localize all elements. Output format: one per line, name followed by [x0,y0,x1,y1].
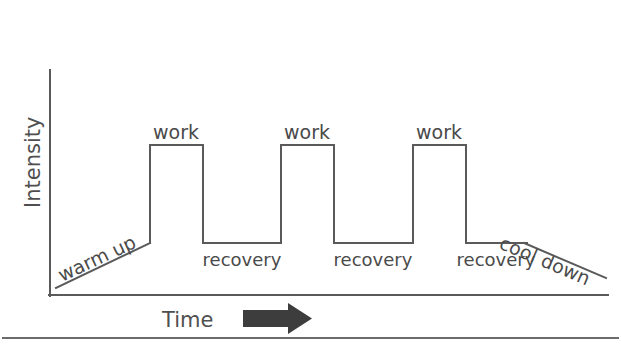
work-label-2: work [284,121,330,143]
work-label-1: work [153,121,199,143]
interval-chart-svg: Intensity warm up cool down work work wo… [0,0,621,355]
work-label-3: work [416,121,462,143]
recovery-label-1: recovery [203,249,282,270]
warm-up-label: warm up [54,230,139,285]
recovery-label-3: recovery [457,249,536,270]
x-axis-label: Time [161,308,213,332]
interval-training-diagram: Intensity warm up cool down work work wo… [0,0,621,355]
interval-wave-path [150,145,527,243]
recovery-label-2: recovery [334,249,413,270]
y-axis-label: Intensity [21,117,45,208]
right-block-arrow-icon [243,303,312,334]
